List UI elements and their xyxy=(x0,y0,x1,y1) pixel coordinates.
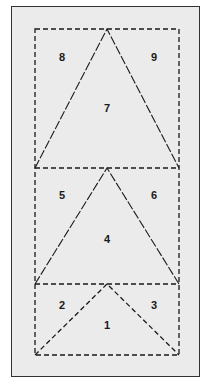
dashed-outline xyxy=(35,29,179,355)
triangle-pattern-diagram: 8 9 7 5 6 4 2 3 1 xyxy=(0,0,204,388)
label-2: 2 xyxy=(59,299,65,311)
triangle-4 xyxy=(35,168,179,284)
label-9: 9 xyxy=(151,51,157,63)
label-3: 3 xyxy=(151,299,157,311)
triangle-7 xyxy=(35,29,179,168)
label-1: 1 xyxy=(104,319,110,331)
label-4: 4 xyxy=(104,233,111,245)
label-8: 8 xyxy=(59,51,65,63)
label-5: 5 xyxy=(59,189,65,201)
label-7: 7 xyxy=(104,102,110,114)
label-6: 6 xyxy=(151,189,157,201)
